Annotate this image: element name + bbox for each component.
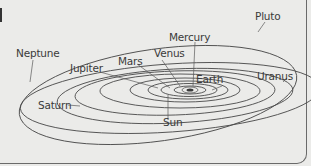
orbit-diagram <box>0 0 311 166</box>
label-saturn: Saturn <box>38 100 71 111</box>
diagram-panel: Pluto Mercury Neptune Venus Mars Jupiter… <box>0 0 311 166</box>
label-jupiter: Jupiter <box>70 63 103 74</box>
label-pluto: Pluto <box>255 11 280 22</box>
label-venus: Venus <box>154 48 185 59</box>
label-sun: Sun <box>163 117 182 128</box>
orbit-neptune <box>18 54 311 143</box>
leader-mercury <box>193 42 195 86</box>
leader-pluto <box>258 22 265 32</box>
label-neptune: Neptune <box>16 48 59 59</box>
sun-icon <box>182 87 198 93</box>
orbit-mars <box>130 78 240 102</box>
orbit-saturn <box>74 68 275 119</box>
label-earth: Earth <box>196 74 223 85</box>
label-mars: Mars <box>118 56 142 67</box>
orbit-jupiter <box>100 74 260 108</box>
leader-jupiter <box>100 72 158 88</box>
leader-neptune <box>30 60 33 82</box>
label-mercury: Mercury <box>169 32 210 43</box>
label-uranus: Uranus <box>257 71 293 82</box>
